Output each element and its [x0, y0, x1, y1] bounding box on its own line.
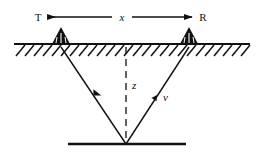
depth-label: z — [131, 79, 137, 91]
seismic-ray-diagram: R ===== --> — [0, 0, 264, 164]
offset-distance-label: x — [119, 11, 125, 23]
upgoing-ray — [126, 47, 189, 144]
ground-hatching — [16, 45, 250, 56]
transmitter-triangle-icon — [52, 27, 70, 44]
downgoing-ray — [61, 47, 126, 144]
diagram-canvas: R ===== --> — [0, 0, 264, 164]
transmitter-label: T — [35, 11, 42, 23]
receiver-triangle-icon — [180, 27, 198, 44]
velocity-label: v — [163, 91, 168, 103]
receiver-label: R — [199, 11, 207, 23]
